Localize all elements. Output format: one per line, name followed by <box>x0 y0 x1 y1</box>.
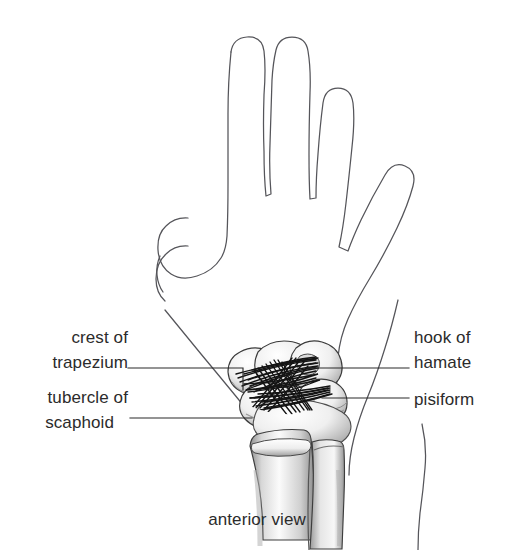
forearm-bones-group <box>250 430 345 550</box>
label-pisiform-line1: pisiform <box>414 387 474 412</box>
label-crest-of-trapezium: crest of trapezium <box>52 325 128 375</box>
label-hook-of-hamate: hook of hamate <box>414 325 471 375</box>
label-tubercle-of-scaphoid-line2: scaphoid <box>45 410 128 435</box>
leader-crest-of-trapezium <box>128 368 243 390</box>
label-tubercle-of-scaphoid-line1: tubercle of <box>45 385 128 410</box>
distal-radius-cap <box>251 439 311 457</box>
hand-ulnar-border-path <box>418 424 426 550</box>
wrist-anatomy-illustration <box>0 0 514 550</box>
label-tubercle-of-scaphoid: tubercle of scaphoid <box>45 385 128 435</box>
anatomy-figure: crest of trapezium tubercle of scaphoid … <box>0 0 514 550</box>
label-hook-of-hamate-line1: hook of <box>414 325 471 350</box>
hand-radial-border-path <box>158 52 231 278</box>
figure-caption: anterior view <box>0 510 514 530</box>
thumb-outline-path <box>156 246 188 301</box>
radius-shading <box>256 470 260 546</box>
label-pisiform: pisiform <box>414 387 474 412</box>
ulna-shading <box>338 470 339 546</box>
wrist-ulnar-contour-path <box>349 300 398 475</box>
label-hook-of-hamate-line2: hamate <box>414 350 471 375</box>
label-crest-of-trapezium-line2: trapezium <box>52 350 128 375</box>
label-crest-of-trapezium-line1: crest of <box>52 325 128 350</box>
